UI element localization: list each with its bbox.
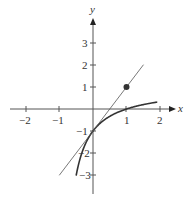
x-tick-label: 2 <box>157 114 163 126</box>
y-tick-label: 1 <box>82 81 88 93</box>
y-axis-label: y <box>89 3 95 15</box>
points-layer <box>124 84 130 90</box>
curve-series <box>76 102 156 175</box>
x-axis-label: x <box>177 102 183 114</box>
y-tick-label: 3 <box>82 37 88 49</box>
x-tick-label: −2 <box>19 114 31 126</box>
x-axis-arrow-icon <box>169 106 176 112</box>
x-tick-label: −1 <box>52 114 64 126</box>
y-axis-arrow-icon <box>90 18 96 25</box>
series-layer <box>60 65 157 175</box>
tangent-line-series <box>60 65 144 175</box>
graph: x y −2 −1 1 2 3 2 1 −1 −2 −3 <box>0 0 190 199</box>
data-point <box>124 84 130 90</box>
x-tick-label: 1 <box>124 114 130 126</box>
axes: x y <box>10 3 183 194</box>
y-tick-label: 2 <box>82 59 88 71</box>
y-tick-label: −3 <box>79 169 91 181</box>
y-tick-label: −1 <box>76 125 88 137</box>
